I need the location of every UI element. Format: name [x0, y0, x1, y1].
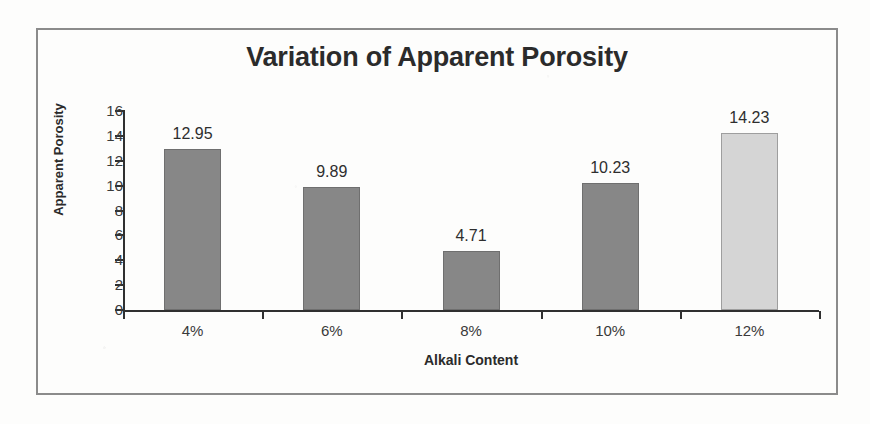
y-axis-title: Apparent Porosity	[51, 95, 66, 225]
y-tick-label: 0	[89, 301, 123, 318]
y-tick-label: 14	[89, 127, 123, 144]
x-category-label: 10%	[570, 322, 650, 339]
x-axis-title: Alkali Content	[123, 352, 819, 368]
plot-area: 0246810121416 12.959.894.7110.2314.23 4%…	[0, 0, 870, 424]
x-tick-mark	[680, 311, 682, 319]
x-tick-mark	[819, 311, 821, 319]
bar-6pct[interactable]	[303, 187, 360, 310]
x-tick-mark	[401, 311, 403, 319]
y-tick-label: 10	[89, 177, 123, 194]
scanned-page: Variation of Apparent Porosity 024681012…	[0, 0, 870, 424]
y-tick-label: 8	[89, 202, 123, 219]
x-category-label: 4%	[153, 322, 233, 339]
bar-10pct[interactable]	[582, 183, 639, 310]
bar-value-label: 14.23	[709, 109, 789, 127]
y-tick-label: 16	[89, 102, 123, 119]
y-tick-label: 2	[89, 276, 123, 293]
y-tick-label: 12	[89, 152, 123, 169]
bar-value-label: 10.23	[570, 159, 650, 177]
y-tick-label: 4	[89, 251, 123, 268]
x-category-label: 12%	[709, 322, 789, 339]
x-tick-mark	[262, 311, 264, 319]
bar-4pct[interactable]	[164, 149, 221, 310]
x-axis-line	[123, 310, 819, 312]
bar-value-label: 12.95	[153, 125, 233, 143]
y-tick-label: 6	[89, 226, 123, 243]
bar-value-label: 9.89	[292, 163, 372, 181]
bar-8pct[interactable]	[443, 251, 500, 310]
bar-value-label: 4.71	[431, 227, 511, 245]
x-tick-mark	[123, 311, 125, 319]
x-category-label: 6%	[292, 322, 372, 339]
x-tick-mark	[541, 311, 543, 319]
y-axis-line	[123, 110, 125, 312]
x-category-label: 8%	[431, 322, 511, 339]
bar-12pct[interactable]	[721, 133, 778, 310]
